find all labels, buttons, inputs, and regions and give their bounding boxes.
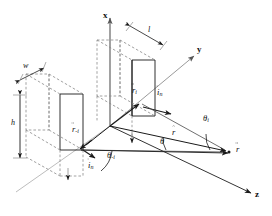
angle-label-theta: θ bbox=[160, 137, 164, 146]
vector-i-n-upper bbox=[143, 107, 171, 114]
vector-arrow-accent bbox=[87, 157, 89, 161]
dimension-label-l: l bbox=[148, 26, 150, 34]
axis-label-x: x bbox=[103, 11, 108, 20]
hat-accent bbox=[172, 124, 175, 128]
vector-arrow-accent bbox=[131, 82, 134, 86]
angle-label-theta-i: θi bbox=[203, 114, 209, 123]
axis-label-z: z bbox=[255, 190, 259, 199]
dimension-length bbox=[126, 22, 167, 50]
vector-label-r-minus-i: r -i bbox=[72, 125, 79, 134]
angle-label-theta-minus-i: θ-i bbox=[107, 151, 115, 160]
dimension-label-w: w bbox=[23, 62, 28, 70]
diagram-canvas: x y z w h l r i i n r bbox=[0, 0, 272, 216]
vector-label-i-n-lower: i n bbox=[88, 161, 93, 170]
axis-z bbox=[16, 126, 251, 193]
vector-geometry-figure bbox=[0, 0, 272, 216]
ray-r-i-to-field bbox=[142, 104, 225, 150]
vector-r-i bbox=[110, 104, 139, 126]
field-point-marker bbox=[228, 151, 231, 154]
vector-arrow-accent bbox=[71, 121, 74, 125]
vector-label-r-hat: r bbox=[172, 128, 175, 137]
ray-minus-i-to-field bbox=[81, 150, 228, 153]
dimension-height bbox=[13, 95, 27, 158]
dimension-label-h: h bbox=[11, 119, 15, 127]
vector-label-r-i: r i bbox=[132, 86, 137, 95]
vector-arrow-accent bbox=[235, 141, 238, 145]
vector-label-i-n-upper: i n bbox=[157, 88, 162, 97]
vector-label-r-field: r bbox=[236, 145, 239, 154]
vector-arrow-accent bbox=[156, 84, 158, 88]
vector-r-minus-i bbox=[80, 126, 110, 149]
upper-block bbox=[97, 40, 155, 143]
axis-y bbox=[110, 56, 194, 126]
axis-label-y: y bbox=[197, 45, 202, 54]
